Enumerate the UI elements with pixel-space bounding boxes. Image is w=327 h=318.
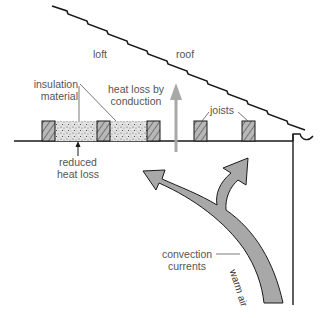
roof-line — [52, 6, 305, 130]
convection-label-line1: convection — [158, 248, 216, 260]
loft-label: loft — [93, 48, 107, 60]
insulation-label-line2: material — [24, 90, 78, 102]
joist-3 — [147, 121, 160, 141]
reduced-label-line2: heat loss — [50, 168, 106, 180]
heat-loss-label-line1: heat loss by — [104, 83, 168, 95]
reduced-heat-loss-label: reduced heat loss — [50, 156, 106, 180]
insulation-block-2 — [110, 121, 147, 141]
gutter-icon — [293, 134, 313, 141]
roof-label: roof — [176, 48, 194, 60]
reduced-label-line1: reduced — [50, 156, 106, 168]
convection-label-line2: currents — [158, 260, 216, 272]
heat-loss-conduction-label: heat loss by conduction — [104, 83, 168, 107]
insulation-block-1 — [54, 121, 97, 141]
heat-loss-label-line2: conduction — [104, 95, 168, 107]
loft-insulation-diagram: loft roof insulation material heat loss … — [0, 0, 327, 318]
joists-label: joists — [210, 104, 234, 116]
joist-1 — [42, 121, 55, 141]
joist-5 — [242, 121, 255, 141]
convection-currents-label: convection currents — [158, 248, 216, 272]
reduced-heat-loss-arrow-icon — [76, 141, 81, 156]
insulation-label-line1: insulation — [24, 78, 78, 90]
convection-current-arrow-icon — [143, 158, 283, 303]
joist-4 — [194, 121, 207, 141]
joist-2 — [97, 121, 110, 141]
insulation-material-label: insulation material — [24, 78, 78, 102]
